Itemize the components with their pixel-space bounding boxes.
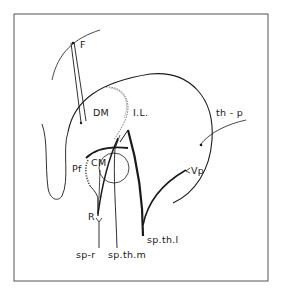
intralaminar-arc-inner — [110, 88, 127, 118]
label-r: R — [88, 211, 95, 222]
figure-frame — [14, 14, 268, 281]
sp-th-m-tract — [114, 135, 120, 248]
pf-dotted-region — [86, 160, 90, 186]
label-f: F — [80, 39, 86, 50]
label-cm: CM — [91, 157, 106, 168]
sp-r-tract — [90, 170, 102, 248]
label-th-p: th - p — [216, 107, 243, 118]
diagram-canvas: F DM I.L. th - p Pf CM Vp R sp-r sp.th.m… — [0, 0, 281, 293]
label-dm: DM — [93, 107, 109, 118]
vp-arrowhead — [186, 168, 190, 173]
th-p-tract — [200, 120, 246, 146]
medial-lobe-outline — [42, 124, 68, 199]
sp-th-l-tract — [120, 130, 186, 236]
label-sp-th-l: sp.th.l — [147, 234, 179, 245]
intralaminar-arc — [106, 87, 128, 140]
label-sp-r: sp-r — [76, 249, 96, 260]
label-vp: Vp — [191, 165, 204, 176]
label-sp-th-m: sp.th.m — [108, 249, 146, 260]
fornix-tract — [71, 42, 86, 125]
label-il: I.L. — [133, 107, 148, 118]
label-pf: Pf — [72, 163, 82, 174]
